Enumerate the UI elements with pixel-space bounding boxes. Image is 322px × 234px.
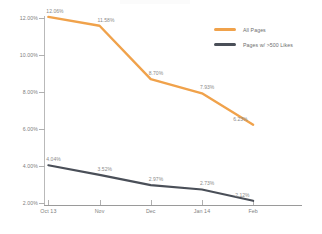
data-point-label: 2.97% (149, 176, 163, 182)
y-tick-label: 6.00% (4, 126, 38, 132)
x-axis-line (44, 205, 302, 206)
x-tick-label: Jan 14 (180, 208, 224, 214)
data-point-label: 12.06% (46, 8, 63, 14)
x-tick-label: Dec (129, 208, 173, 214)
legend-item-all-pages[interactable]: All Pages (214, 22, 320, 37)
legend-swatch-all-pages (214, 28, 236, 31)
data-point-label: 7.93% (200, 84, 214, 90)
y-tick-label: 2.00% (4, 200, 38, 206)
cropped-title-artifact (120, 0, 190, 4)
y-tick-label: 10.00% (4, 52, 38, 58)
legend-label-all-pages: All Pages (243, 27, 266, 33)
y-tick-label: 4.00% (4, 163, 38, 169)
data-point-label: 6.23% (233, 116, 247, 122)
legend-label-pages-500-likes: Pages w/ >500 Likes (243, 42, 293, 48)
data-point-label: 4.04% (46, 156, 60, 162)
y-tick-mark (39, 203, 45, 204)
chart-legend: All Pages Pages w/ >500 Likes (214, 22, 320, 52)
series-line-pages-500-likes (48, 165, 253, 201)
legend-swatch-pages-500-likes (214, 43, 236, 46)
x-tick-label: Feb (231, 208, 275, 214)
line-chart: 12.00%10.00%8.00%6.00%4.00%2.00% Oct 13N… (0, 0, 322, 234)
y-axis-labels: 12.00%10.00%8.00%6.00%4.00%2.00% (0, 0, 38, 234)
data-point-label: 11.58% (98, 17, 115, 23)
y-tick-label: 8.00% (4, 89, 38, 95)
data-point-label: 2.12% (235, 192, 249, 198)
data-point-label: 2.73% (200, 180, 214, 186)
x-tick-label: Nov (78, 208, 122, 214)
data-point-label: 3.52% (98, 166, 112, 172)
y-tick-label: 12.00% (4, 15, 38, 21)
legend-item-pages-500-likes[interactable]: Pages w/ >500 Likes (214, 37, 320, 52)
data-point-label: 8.70% (149, 70, 163, 76)
x-tick-label: Oct 13 (26, 208, 70, 214)
